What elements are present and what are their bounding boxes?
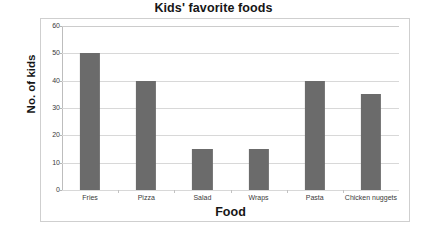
x-tick-label: Chicken nuggets [343, 193, 399, 203]
x-tick-separator [287, 190, 288, 193]
y-tick-label-0: 0 [38, 186, 60, 193]
plot-area [62, 26, 399, 190]
x-tick-label: Pasta [287, 193, 343, 203]
x-tick-separator [231, 190, 232, 193]
bar [136, 81, 156, 190]
x-axis-title: Food [62, 205, 399, 219]
bar-slot [287, 26, 343, 190]
y-tick-label-10: 10 [38, 159, 60, 166]
bar-slot [174, 26, 230, 190]
bar-slot [343, 26, 399, 190]
chart-title: Kids' favorite foods [0, 1, 427, 15]
bar [192, 149, 212, 190]
bar [80, 53, 100, 190]
x-tick-label: Fries [62, 193, 118, 203]
y-tick-label-40: 40 [38, 77, 60, 84]
y-axis-tick-labels: 0102030405060 [36, 26, 60, 190]
x-tick-separator [343, 190, 344, 193]
bar [305, 81, 325, 190]
x-tick-label: Wraps [231, 193, 287, 203]
x-tick-label: Salad [174, 193, 230, 203]
bars-group [62, 26, 399, 190]
bar-slot [62, 26, 118, 190]
y-tick-label-20: 20 [38, 131, 60, 138]
bar-slot [231, 26, 287, 190]
bar-slot [118, 26, 174, 190]
bar [361, 94, 381, 190]
bar-chart-figure: Kids' favorite foods No. of kids 0102030… [0, 0, 427, 234]
y-tick-label-60: 60 [38, 22, 60, 29]
x-tick-separator [118, 190, 119, 193]
y-tick-label-30: 30 [38, 104, 60, 111]
x-tick-separator [174, 190, 175, 193]
x-tick-label: Pizza [118, 193, 174, 203]
bar [248, 149, 268, 190]
y-tick-label-50: 50 [38, 49, 60, 56]
